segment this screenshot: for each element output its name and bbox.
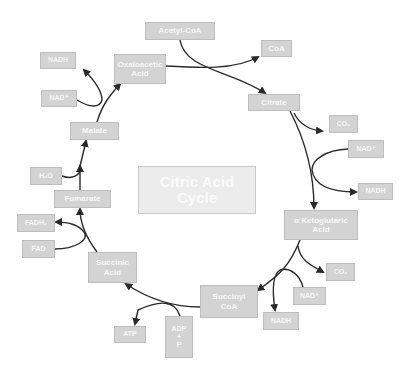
node-h2o: H₂O [30, 167, 62, 185]
node-acetyl-coa: Acetyl-CoA [145, 22, 215, 40]
node-adp-p: ADP + P [165, 316, 193, 358]
node-atp: ATP [114, 326, 146, 343]
node-nad-left: NAD⁺ [41, 90, 77, 107]
node-succinic-acid: Succinic Acid [88, 252, 137, 283]
node-fad: FAD [22, 240, 55, 258]
node-co2-lower: CO₂ [326, 263, 355, 281]
node-fumarate: Fumarate [54, 190, 111, 208]
cycle-title: Citric Acid Cycle [138, 166, 256, 214]
node-coa: CoA [261, 40, 292, 57]
node-citrate: Citrate [248, 94, 300, 111]
node-nad-lower: NAD⁺ [293, 287, 326, 305]
node-fadh2: FADH₂ [17, 214, 55, 232]
node-nadh-bottom: NADH [263, 312, 299, 330]
node-co2-upper: CO₂ [329, 115, 358, 133]
node-oxaloacetic-acid: Oxaloacetic Acid [114, 54, 166, 84]
node-nadh-left: NADH [40, 52, 76, 69]
node-succinyl-coa: Succinyl CoA [200, 285, 258, 318]
node-nad-upper: NAD⁺ [348, 140, 384, 158]
node-malate: Malate [70, 122, 119, 140]
node-nadh-right: NADH [358, 183, 393, 200]
citric-acid-cycle-diagram: Citric Acid Cycle Acetyl-CoA CoA Citrate… [0, 0, 411, 377]
node-alpha-ketoglutaric-acid: α Ketoglutaric Acid [284, 210, 358, 240]
